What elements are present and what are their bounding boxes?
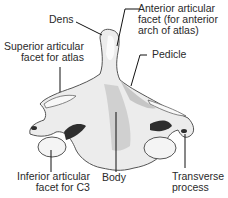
label-superior-articular-facet: Superior articular facet for atlas (4, 41, 84, 63)
label-body: Body (102, 172, 126, 183)
label-pedicle: Pedicle (152, 49, 186, 60)
label-anterior-articular-facet: Anterior articular facet (for anterior a… (138, 3, 218, 36)
inferior-facet-shape (38, 137, 66, 157)
label-dens: Dens (49, 14, 74, 25)
label-transverse-process: Transverse process (172, 171, 224, 193)
label-inferior-articular-facet: Inferior articular facet for C3 (17, 171, 90, 193)
